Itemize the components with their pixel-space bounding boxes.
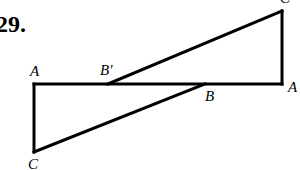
label-a-left: A bbox=[30, 64, 39, 79]
label-c-top: C bbox=[280, 0, 290, 6]
label-a-right: A bbox=[288, 80, 297, 95]
label-c-bottom: C bbox=[28, 157, 38, 170]
triangle-diagram bbox=[0, 0, 300, 170]
label-b: B bbox=[205, 89, 214, 104]
hypotenuse-bottom bbox=[34, 84, 205, 152]
hypotenuse-top bbox=[108, 11, 282, 84]
label-b-prime: B′ bbox=[100, 63, 112, 78]
